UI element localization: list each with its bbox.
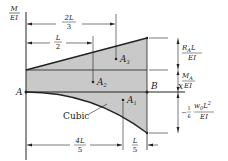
arrowhead-right-icon xyxy=(110,23,115,26)
dim-RAL-numerator: RAL xyxy=(181,44,196,53)
arrowhead-left-icon xyxy=(148,144,153,147)
dim-w0L2-frac-den: 6 xyxy=(187,113,190,119)
y-axis-label-denominator: EI xyxy=(9,14,18,22)
arrowhead-right-icon xyxy=(117,144,122,147)
point-B-label: B xyxy=(150,81,158,91)
arrowhead-up-icon xyxy=(177,39,180,44)
point-B-dot xyxy=(146,91,149,94)
dim-w0L2-numerator: w0L2 xyxy=(194,100,211,111)
cubic-label: Cubic xyxy=(63,111,89,121)
point-top-right-dot xyxy=(146,37,148,39)
point-A-label: A xyxy=(15,87,23,97)
arrowhead-down-icon xyxy=(177,64,180,69)
y-axis-label-numerator: M xyxy=(9,5,18,13)
point-bottom-right-dot xyxy=(146,132,148,134)
dim-RAL-denominator: EI xyxy=(187,54,196,62)
dim-L5-denominator: 5 xyxy=(133,146,137,154)
dim-4L5-numerator: 4L xyxy=(74,137,84,145)
rectangle-region-A2 xyxy=(26,70,147,92)
arrowhead-left-icon xyxy=(27,42,32,45)
dim-w0L2-prefix: − xyxy=(181,109,187,117)
arrowhead-left-icon xyxy=(27,144,32,147)
centroid-A3-dot xyxy=(115,58,118,61)
arrowhead-up-icon xyxy=(177,71,180,75)
dim-2L3-denominator: 3 xyxy=(67,23,71,31)
arrowhead-right-icon xyxy=(87,42,92,45)
point-A-dot xyxy=(25,91,28,94)
dim-L2-denominator: 2 xyxy=(56,43,60,51)
dim-4L5-denominator: 5 xyxy=(78,146,82,154)
dim-w0L2-denominator: EI xyxy=(199,113,208,121)
centroid-A1-dot xyxy=(122,99,125,102)
dim-w0L2-frac-num: 1 xyxy=(187,105,190,111)
dim-2L3-numerator: 2L xyxy=(63,14,73,22)
x-axis-label: x xyxy=(178,81,183,91)
arrowhead-up-icon xyxy=(177,93,180,98)
dim-MA-numerator: MA xyxy=(181,72,193,81)
dim-L2-numerator: L xyxy=(55,34,61,42)
dim-L5-numerator: L xyxy=(132,137,138,145)
arrowhead-down-icon xyxy=(177,127,180,132)
moment-area-diagram: M EI A B x 2L 3 L 2 A3 A2 A1 Cubic 4L 5 … xyxy=(0,0,228,161)
dim-MA-denominator: EI xyxy=(183,82,192,90)
arrowhead-left-icon xyxy=(27,23,32,26)
centroid-A2-dot xyxy=(92,81,95,84)
